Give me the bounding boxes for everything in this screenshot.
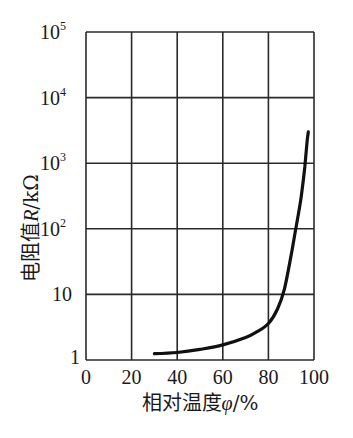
y-tick-label: 105	[40, 19, 66, 43]
x-tick-label: 80	[258, 366, 278, 388]
x-axis-label-unit: /%	[233, 391, 259, 415]
y-axis-ticks: 110102103104105	[40, 19, 80, 368]
x-axis-label-symbol: φ	[222, 392, 233, 415]
x-tick-label: 0	[81, 366, 91, 388]
x-axis-label-text: 相对温度	[142, 391, 222, 415]
x-tick-label: 40	[167, 366, 187, 388]
x-axis-ticks: 020406080100	[81, 366, 329, 388]
x-tick-label: 60	[213, 366, 233, 388]
x-axis-label: 相对温度φ/%	[142, 391, 259, 415]
humidity-resistance-chart: 110102103104105 020406080100 相对温度φ/% 电阻值…	[0, 0, 353, 438]
y-tick-label: 1	[70, 346, 80, 368]
chart-grid	[86, 32, 314, 360]
y-axis-label: 电阻值R/kΩ	[19, 174, 43, 282]
y-axis-label-text: 电阻值	[19, 222, 43, 282]
y-tick-label: 104	[40, 85, 66, 109]
y-tick-label: 10	[52, 283, 72, 305]
y-axis-label-unit: /kΩ	[19, 174, 43, 209]
y-tick-label: 103	[40, 150, 66, 174]
y-axis-label-symbol: R	[20, 210, 42, 223]
x-tick-label: 100	[299, 366, 329, 388]
x-tick-label: 20	[122, 366, 142, 388]
y-tick-label: 102	[40, 216, 66, 240]
